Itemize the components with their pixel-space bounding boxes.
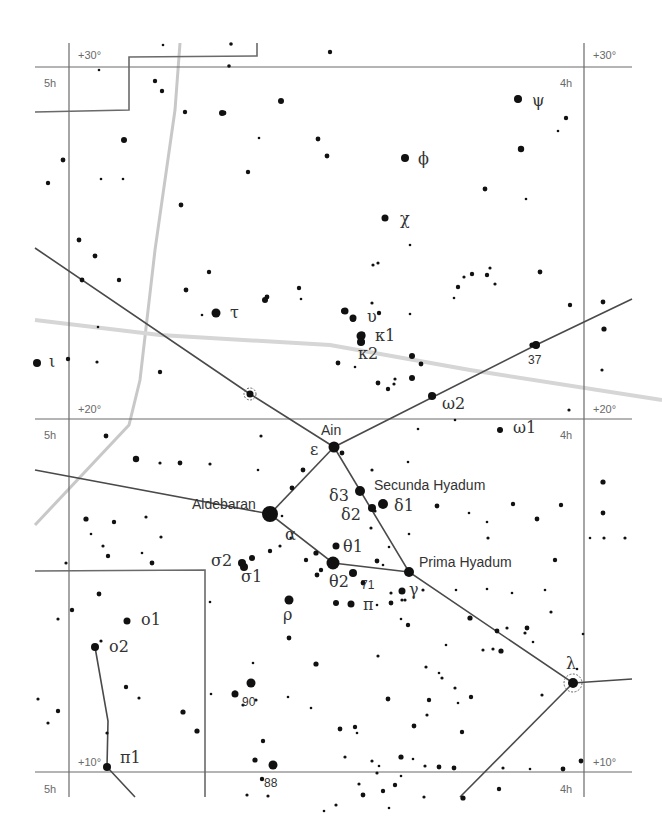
star (356, 732, 359, 735)
star (453, 686, 456, 689)
star (313, 550, 318, 555)
star-rho (285, 596, 294, 605)
star-n88 (269, 761, 278, 770)
star (64, 561, 67, 564)
star (46, 181, 50, 185)
star (137, 696, 140, 699)
star (495, 629, 500, 634)
star (77, 238, 82, 243)
star (544, 589, 547, 592)
star (498, 648, 503, 653)
star (437, 765, 442, 770)
star (523, 631, 526, 634)
dec-label-20-left: +20° (78, 403, 101, 415)
star (336, 361, 341, 366)
dec-label-20-right: +20° (593, 403, 616, 415)
star (462, 275, 465, 278)
star (245, 793, 248, 796)
label-sigma2: σ2 (211, 551, 232, 570)
star (445, 644, 448, 647)
star (427, 698, 431, 702)
star-prima (404, 567, 414, 577)
star (222, 111, 227, 116)
label-phi: ϕ (418, 149, 429, 168)
ra-label-4h-bottom: 4h (560, 783, 572, 795)
star (529, 768, 532, 771)
label-kappa2: κ2 (358, 344, 378, 363)
star (258, 137, 261, 140)
star (540, 693, 543, 696)
label-omega1: ω1 (513, 418, 536, 437)
star (486, 536, 489, 539)
star (101, 544, 104, 547)
star (210, 693, 213, 696)
star (525, 198, 528, 201)
star (262, 297, 268, 303)
star-lambda (568, 678, 578, 688)
label-epsilon: ε (310, 440, 318, 459)
star (97, 326, 100, 329)
star (600, 479, 605, 484)
label-88: 88 (264, 776, 278, 790)
star (400, 775, 403, 778)
star (370, 301, 373, 304)
label-chi: χ (400, 209, 410, 228)
star (257, 469, 260, 472)
label-omicron2: o2 (109, 637, 129, 656)
dec-label-30-left: +30° (78, 49, 101, 61)
star (559, 503, 563, 507)
star (93, 254, 98, 259)
star (435, 504, 440, 509)
star (376, 604, 379, 607)
star (386, 387, 390, 391)
star (150, 561, 155, 566)
star (162, 44, 165, 47)
star (159, 535, 162, 538)
star (353, 725, 357, 729)
star-phi (401, 154, 409, 162)
star (438, 672, 441, 675)
label-delta3: δ3 (329, 486, 349, 505)
ra-label-4h-mid: 4h (560, 429, 572, 441)
star (158, 370, 162, 374)
star (467, 615, 472, 620)
ra-label-5h-mid: 5h (44, 429, 56, 441)
star (83, 516, 88, 521)
label-pi1: π1 (120, 748, 141, 767)
star (370, 468, 373, 471)
star (393, 377, 396, 380)
star-n90 (247, 679, 256, 688)
star-aldebaran (262, 506, 278, 522)
star (460, 795, 465, 800)
label-theta1: θ1 (343, 537, 363, 556)
star (424, 665, 427, 668)
label-ain: Ain (321, 422, 341, 438)
star (325, 154, 330, 159)
star (160, 89, 164, 93)
star (497, 787, 501, 791)
star (259, 434, 262, 437)
star (452, 766, 457, 771)
star (582, 633, 585, 636)
star (343, 755, 346, 758)
star (319, 568, 323, 572)
star (532, 641, 535, 644)
star (485, 273, 489, 277)
star (601, 300, 606, 305)
star (564, 116, 568, 120)
star (95, 360, 98, 363)
star (201, 314, 204, 317)
star (457, 702, 460, 705)
label-theta2: θ2 (329, 572, 349, 591)
star (488, 266, 491, 269)
label-aldebaran: Aldebaran (192, 496, 256, 512)
star (357, 782, 360, 785)
star (369, 526, 372, 529)
label-kappa1: κ1 (375, 326, 395, 345)
star (334, 803, 337, 806)
ra-label-4h-top: 4h (560, 77, 572, 89)
star (382, 564, 385, 567)
star (408, 533, 411, 536)
star (252, 757, 257, 762)
star (409, 244, 412, 247)
